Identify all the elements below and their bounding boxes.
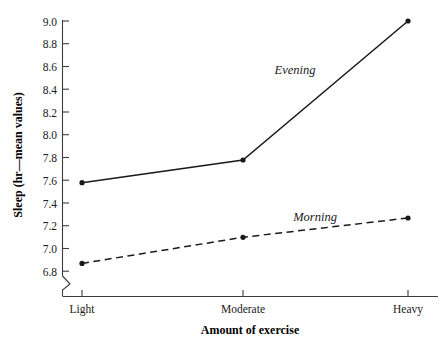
y-tick-label: 7.6 (43, 175, 58, 187)
x-tick-labels: Light Moderate Heavy (70, 303, 424, 316)
y-tick-label: 8.8 (43, 38, 58, 50)
y-tick-label: 7.2 (43, 220, 58, 232)
series-label-evening: Evening (274, 63, 316, 77)
y-tick-marks (63, 21, 70, 271)
x-tick-marks (82, 290, 408, 297)
axis-break-icon (63, 276, 71, 296)
series-label-morning: Morning (292, 210, 337, 224)
x-tick-label: Heavy (393, 303, 423, 316)
y-tick-label: 8.0 (43, 129, 58, 141)
y-tick-label: 7.0 (43, 243, 58, 255)
chart-canvas: 9.0 8.8 8.6 8.4 8.2 8.0 7.8 7.6 7.4 7.2 … (0, 0, 442, 353)
data-point (405, 18, 410, 23)
series-markers-evening (79, 18, 410, 185)
y-tick-label: 8.2 (43, 107, 58, 119)
data-point (79, 180, 84, 185)
y-tick-label: 9.0 (43, 16, 58, 28)
chart-figure: 9.0 8.8 8.6 8.4 8.2 8.0 7.8 7.6 7.4 7.2 … (0, 0, 442, 353)
series-line-morning (82, 218, 408, 263)
data-point (405, 215, 410, 220)
data-point (240, 157, 245, 162)
y-tick-label: 7.4 (43, 198, 58, 210)
y-tick-label: 8.4 (43, 84, 58, 96)
x-axis-title: Amount of exercise (201, 323, 300, 337)
y-tick-labels: 9.0 8.8 8.6 8.4 8.2 8.0 7.8 7.6 7.4 7.2 … (43, 16, 58, 278)
x-tick-label: Light (70, 303, 96, 316)
data-point (240, 235, 245, 240)
y-tick-label: 8.6 (43, 61, 58, 73)
x-tick-label: Moderate (221, 303, 265, 315)
y-tick-label: 6.8 (43, 266, 58, 278)
data-point (79, 261, 84, 266)
y-tick-label: 7.8 (43, 152, 58, 164)
y-axis-title: Sleep (hr—mean values) (11, 92, 25, 217)
